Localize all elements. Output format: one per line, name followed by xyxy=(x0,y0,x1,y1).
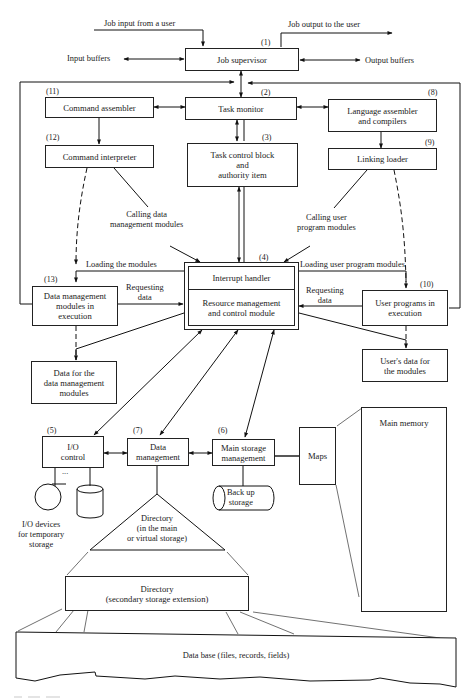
io-control-box: I/O control xyxy=(42,436,104,468)
io-control-number: (5) xyxy=(47,426,56,435)
task-monitor-box: Task monitor xyxy=(185,97,297,120)
main-memory-box: Main memory xyxy=(361,407,447,612)
calling-data-management-label: Calling data management modules xyxy=(110,210,183,230)
resource-management-label: Resource management and control module xyxy=(189,290,294,325)
data-management-box: Data management xyxy=(127,438,189,466)
job-output-label: Job output to the user xyxy=(288,20,360,30)
command-interpreter-number: (12) xyxy=(46,133,59,142)
command-assembler-number: (11) xyxy=(46,87,59,96)
language-assembler-box: Language assembler and compilers xyxy=(328,99,437,132)
calling-user-program-label: Calling user program modules xyxy=(297,213,356,233)
requesting-data-left-label: Requesting data xyxy=(126,283,164,303)
data-mgmt-modules-box: Data management modules in execution xyxy=(32,286,118,326)
job-supervisor-number: (1) xyxy=(261,38,270,47)
user-programs-number: (10) xyxy=(420,280,433,289)
linking-loader-number: (9) xyxy=(425,138,434,147)
database-label: Data base (files, records, fields) xyxy=(16,651,456,661)
user-programs-box: User programs in execution xyxy=(362,290,448,326)
command-assembler-box: Command assembler xyxy=(45,97,154,118)
loading-user-program-label: Loading user program modules xyxy=(300,260,405,270)
command-interpreter-box: Command interpreter xyxy=(45,145,154,168)
job-supervisor-box: Job supervisor xyxy=(185,48,299,71)
main-storage-mgmt-number: (6) xyxy=(218,426,227,435)
backup-storage-label: Back up storage xyxy=(227,488,255,508)
output-buffers-label: Output buffers xyxy=(365,56,414,66)
io-devices-ellipsis: ... xyxy=(62,467,68,477)
task-control-block-box: Task control block and authority item xyxy=(187,143,298,187)
task-control-block-number: (3) xyxy=(262,133,271,142)
directory-main-label: Directory (in the main or virtual storag… xyxy=(110,514,204,544)
data-mgmt-modules-number: (13) xyxy=(44,275,57,284)
job-input-label: Job input from a user xyxy=(104,19,175,29)
main-storage-mgmt-box: Main storage management xyxy=(212,439,275,466)
io-devices-label: I/O devices for temporary storage xyxy=(18,520,64,550)
language-assembler-number: (8) xyxy=(428,88,437,97)
interrupt-resource-box: Interrupt handler Resource management an… xyxy=(184,262,299,330)
interrupt-handler-label: Interrupt handler xyxy=(189,267,294,290)
maps-box: Maps xyxy=(299,427,336,485)
interrupt-handler-number: (4) xyxy=(259,253,268,262)
task-monitor-number: (2) xyxy=(261,88,270,97)
users-data-box: User's data for the modules xyxy=(362,349,448,382)
linking-loader-box: Linking loader xyxy=(328,148,437,170)
data-management-number: (7) xyxy=(133,426,142,435)
input-buffers-label: Input buffers xyxy=(67,54,110,64)
requesting-data-right-label: Requesting data xyxy=(306,286,344,306)
data-for-dm-modules-box: Data for the data management modules xyxy=(31,361,117,404)
loading-modules-label: Loading the modules xyxy=(86,260,157,270)
directory-secondary-box: Directory (secondary storage extension) xyxy=(65,576,249,611)
